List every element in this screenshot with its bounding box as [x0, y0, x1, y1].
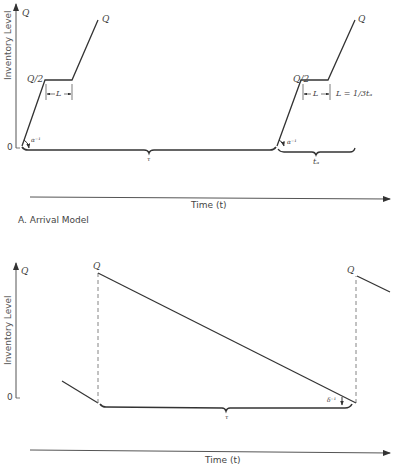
- panel-b-y-top-label: Q: [21, 266, 28, 276]
- panel-a-y-top-label: Q: [22, 8, 29, 18]
- panel-b-slope-label: δ⁻¹: [327, 396, 336, 403]
- panel-b-demand-line: [98, 273, 356, 403]
- panel-b-graphics: [16, 263, 390, 453]
- panel-b-zero-label: 0: [7, 392, 13, 402]
- panel-a-ta-label: tₐ: [313, 157, 319, 166]
- panel-a-q-half-label-2: Q/2: [293, 74, 309, 84]
- panel-a-slope-label: α⁻¹: [31, 136, 41, 143]
- panel-a-tau-label: τ: [147, 155, 150, 162]
- panel-a-q-label-2: Q: [358, 14, 365, 24]
- panel-a-graphics: [16, 4, 390, 199]
- panel-b-tau-brace: [100, 404, 352, 411]
- panel-a-lag-label: L: [56, 89, 61, 98]
- panel-b-x-axis-label: Time (t): [205, 455, 240, 465]
- panel-a-q-half-label: Q/2: [27, 74, 43, 84]
- panel-b-tau-label: τ: [225, 413, 228, 420]
- panel-a-cycle-2: [277, 20, 355, 146]
- panel-b-y-axis-label: Inventory Level: [3, 295, 13, 365]
- panel-a-caption: A. Arrival Model: [18, 215, 89, 225]
- panel-b-peak-label-right: Q: [347, 265, 354, 275]
- panel-a-slope-label-2: α⁻¹: [287, 138, 297, 145]
- panel-a-x-axis: [30, 197, 390, 199]
- panel-a-tau-brace: [22, 147, 276, 153]
- panel-a-x-axis-label: Time (t): [191, 200, 226, 210]
- panel-a-q-label: Q: [102, 14, 109, 24]
- panel-a-lag-label-2: L: [313, 89, 318, 98]
- panel-a-lag-formula: L = 1/3tₐ: [336, 89, 372, 98]
- panel-b-x-axis: [30, 450, 390, 453]
- panel-a-zero-label: 0: [7, 142, 13, 152]
- panel-a-ta-brace: [278, 148, 355, 155]
- panel-b-peak-label-left: Q: [93, 261, 100, 271]
- panel-a-y-axis-label: Inventory Level: [3, 10, 13, 80]
